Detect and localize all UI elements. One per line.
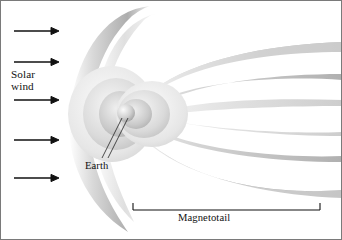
arrow-right-icon xyxy=(14,96,59,103)
arrow-right-icon xyxy=(14,174,59,181)
magnetotail-label: Magnetotail xyxy=(178,212,230,223)
arrow-right-icon xyxy=(14,136,59,143)
solar-wind-arrows xyxy=(14,27,59,181)
magnetosphere-figure: Solar wind Earth Magnetotail xyxy=(0,0,342,240)
arrow-right-icon xyxy=(14,58,59,65)
earth-label: Earth xyxy=(85,160,108,171)
magnetosphere-illustration xyxy=(0,0,342,240)
arrow-right-icon xyxy=(14,27,59,34)
earth-icon xyxy=(117,104,135,122)
solar-wind-label: Solar wind xyxy=(11,68,59,92)
span-bracket-icon xyxy=(133,203,320,210)
